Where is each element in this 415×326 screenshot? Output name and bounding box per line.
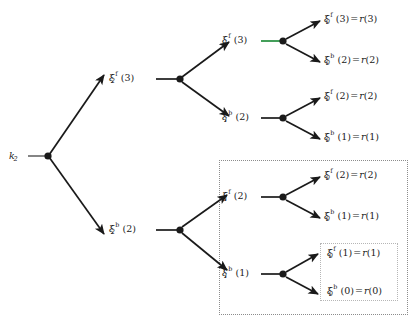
xi1b2-superscript: b [228,109,232,117]
leaf6-superscript: f [333,245,335,253]
root-node-k2: k2 [9,151,19,161]
xi1f2-superscript: f [228,188,230,196]
xi1b1-superscript: b [228,265,232,273]
dot-xi1b1 [279,270,286,277]
leaf2-superscript: f [330,88,332,96]
xi2b2-arg: (2) [123,223,136,234]
leaf6-arg: (1) [339,247,352,258]
leaf-xi0-f-3: ξ0f(3)=r(3) [324,14,377,24]
dot-xi1f2 [279,193,286,200]
leaf-xi0-f-1-boxed: ξ0f(1)=r(1) [327,248,380,258]
edge-xi1b2-to-leaf-f [286,98,320,116]
leaf2-subscript: 0 [326,95,330,103]
leaf2-arg: (2) [336,90,349,101]
edge-root-to-xi2f3 [49,75,104,155]
leaf0-subscript: 0 [326,18,330,26]
leaf-xi0-b-1-lower: ξ0b(1)=r(1) [324,211,379,221]
leaf-xi0-b-0-boxed: ξ0b(0)=r(0) [327,286,382,296]
leaf5-subscript: 0 [326,215,330,223]
node-xi2-f-3: ξ2f(3) [109,73,134,83]
diagram-canvas: k2 ξ2f(3) ξ2b(2) ξ1f(3) ξ1b(2) ξ1f(2) ξ1… [0,0,415,326]
leaf0-superscript: f [330,11,332,19]
leaf5-superscript: b [330,208,334,216]
leaf7-equals: = [354,285,364,296]
xi1f3-subscript: 1 [224,39,228,47]
leaf6-subscript: 0 [329,252,333,260]
leaf3-superscript: b [330,129,334,137]
leaf7-subscript: 0 [329,290,333,298]
leaf5-equals: = [351,210,361,221]
edge-xi1f3-to-leaf-b [286,44,320,62]
leaf2-value-arg: (2) [364,90,377,101]
node-xi1-f-2: ξ1f(2) [222,191,247,201]
leaf5-arg: (1) [338,210,351,221]
leaf3-value-arg: (1) [366,131,379,142]
leaf3-arg: (1) [338,131,351,142]
leaf6-value-arg: (1) [367,247,380,258]
edge-xi1f2-to-leaf-b [286,200,320,218]
leaf-xi0-b-2: ξ0b(2)=r(2) [324,55,379,65]
edge-xi1f2-to-leaf-f [286,177,320,195]
leaf-xi0-f-2-lower: ξ0f(2)=r(2) [324,170,377,180]
xi1b2-subscript: 1 [224,116,228,124]
root-subscript: 2 [14,155,18,163]
leaf-xi0-f-2-upper: ξ0f(2)=r(2) [324,91,377,101]
leaf1-arg: (2) [338,54,351,65]
xi1b1-subscript: 1 [224,272,228,280]
leaf-xi0-b-1-upper: ξ0b(1)=r(1) [324,132,379,142]
edge-xi1b2-to-leaf-b [286,121,320,139]
leaf2-equals: = [349,90,359,101]
xi2b2-subscript: 2 [111,228,115,236]
leaf3-equals: = [351,131,361,142]
leaf7-arg: (0) [341,285,354,296]
leaf1-value-arg: (2) [366,54,379,65]
xi1f3-arg: (3) [234,34,247,45]
xi1f2-arg: (2) [234,190,247,201]
edge-xi2b2-to-xi1f2 [182,195,227,227]
dot-xi2f3 [176,75,183,82]
edge-xi1b1-to-leaf-f [286,254,318,272]
xi2f3-arg: (3) [121,72,134,83]
leaf1-subscript: 0 [326,59,330,67]
xi1b1-arg: (1) [236,267,249,278]
node-xi2-b-2: ξ2b(2) [109,224,136,234]
dot-xi1b2 [279,114,286,121]
leaf7-superscript: b [333,283,337,291]
leaf0-equals: = [349,13,359,24]
leaf4-superscript: f [330,167,332,175]
leaf5-value-arg: (1) [366,210,379,221]
edge-xi2f3-to-xi1f3 [182,42,229,77]
xi1f2-subscript: 1 [224,195,228,203]
leaf3-subscript: 0 [326,136,330,144]
leaf0-arg: (3) [336,13,349,24]
node-xi1-f-3: ξ1f(3) [222,35,247,45]
edge-xi1b1-to-leaf-b [286,277,318,294]
xi2f3-subscript: 2 [111,77,115,85]
dot-root [44,152,51,159]
edge-root-to-xi2b2 [49,157,104,234]
leaf0-value-arg: (3) [364,13,377,24]
leaf1-superscript: b [330,52,334,60]
leaf4-arg: (2) [336,169,349,180]
dot-xi1f3 [279,37,286,44]
xi1f3-superscript: f [228,32,230,40]
node-xi1-b-2: ξ1b(2) [222,112,249,122]
leaf6-equals: = [352,247,362,258]
xi2b2-superscript: b [115,221,119,229]
leaf4-equals: = [349,169,359,180]
edge-xi2b2-to-xi1b1 [182,233,227,270]
xi2f3-superscript: f [115,70,117,78]
node-xi1-b-1: ξ1b(1) [222,268,249,278]
xi1b2-arg: (2) [236,111,249,122]
leaf4-subscript: 0 [326,174,330,182]
edge-xi1f3-to-leaf-f [286,21,320,39]
leaf4-value-arg: (2) [364,169,377,180]
dot-xi2b2 [176,226,183,233]
leaf1-equals: = [351,54,361,65]
tree-edges-layer [0,0,415,326]
leaf7-value-arg: (0) [369,285,382,296]
